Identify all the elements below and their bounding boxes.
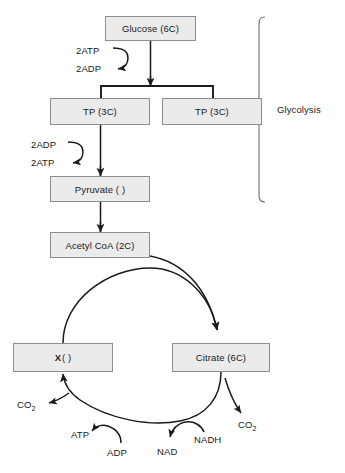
node-tp-right-label: TP (3C) — [195, 106, 229, 117]
node-acetyl-coa-label: Acetyl CoA (2C) — [65, 240, 134, 251]
respiration-diagram: Glucose (6C) TP (3C) TP (3C) Pyruvate ( … — [0, 0, 345, 473]
label-co2-right-subscript: 2 — [252, 425, 256, 432]
node-glucose: Glucose (6C) — [105, 16, 196, 41]
node-citrate-label: Citrate (6C) — [196, 352, 246, 363]
node-x-brackets: ( ) — [62, 352, 71, 363]
node-glucose-label: Glucose (6C) — [122, 23, 179, 34]
node-tp-left: TP (3C) — [50, 98, 150, 125]
node-tp-left-label: TP (3C) — [83, 106, 117, 117]
label-co2-left-text: CO — [17, 399, 31, 410]
adp-to-atp-branch — [92, 425, 121, 443]
label-nadh: NADH — [194, 434, 221, 445]
cycle-top-arc — [63, 268, 217, 343]
acetyl-to-citrate-arc — [150, 256, 217, 330]
cycle-bottom-arc — [63, 372, 221, 423]
atp-to-adp-curve-upper — [113, 48, 128, 69]
node-acetyl-coa: Acetyl CoA (2C) — [50, 232, 150, 258]
node-tp-right: TP (3C) — [162, 98, 262, 125]
node-citrate: Citrate (6C) — [172, 343, 270, 372]
label-nad: NAD — [157, 446, 177, 457]
node-pyruvate-label: Pyruvate ( ) — [75, 184, 125, 195]
label-co2-left: CO2 — [17, 399, 35, 412]
label-atp-produced: 2ATP — [31, 157, 54, 168]
label-atp-consumed: 2ATP — [76, 45, 99, 56]
label-atp-krebs: ATP — [71, 429, 89, 440]
node-pyruvate: Pyruvate ( ) — [50, 176, 150, 202]
label-glycolysis-bracket: Glycolysis — [277, 104, 321, 115]
co2-left-branch — [49, 393, 69, 403]
node-x-unknown: X( ) — [13, 343, 113, 372]
co2-right-branch — [225, 378, 241, 413]
label-co2-right: CO2 — [238, 419, 256, 432]
label-co2-right-text: CO — [238, 419, 252, 430]
node-x-symbol: X — [55, 352, 61, 363]
split-bracket-to-tp — [101, 86, 213, 98]
label-co2-left-subscript: 2 — [31, 405, 35, 412]
label-adp-produced: 2ADP — [76, 63, 101, 74]
label-adp-consumed: 2ADP — [31, 139, 56, 150]
label-adp-krebs: ADP — [107, 447, 127, 458]
adp-to-atp-curve-lower — [68, 142, 83, 163]
